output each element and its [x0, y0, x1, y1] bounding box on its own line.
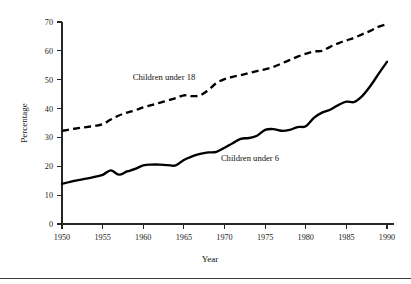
- y-tick-label: 0: [49, 220, 53, 229]
- y-axis-title: Percentage: [19, 103, 29, 142]
- series-label-children-under-18: Children under 18: [133, 72, 196, 82]
- y-tick-label: 40: [45, 105, 53, 114]
- x-tick-label: 1990: [379, 233, 395, 242]
- x-tick-label: 1985: [338, 233, 354, 242]
- footer-divider: [0, 278, 411, 279]
- y-tick-label: 10: [45, 191, 53, 200]
- y-tick-label: 30: [45, 133, 53, 142]
- y-axis-ticks: 010203040506070: [45, 18, 62, 229]
- y-tick-label: 50: [45, 76, 53, 85]
- x-tick-label: 1975: [257, 233, 273, 242]
- x-tick-label: 1955: [94, 233, 110, 242]
- x-axis-ticks: 195019551960196519701975198019851990: [54, 224, 395, 242]
- line-chart: 010203040506070 195019551960196519701975…: [0, 0, 411, 284]
- series-label-children-under-6: Children under 6: [221, 153, 280, 163]
- y-tick-label: 70: [45, 18, 53, 27]
- x-tick-label: 1960: [135, 233, 151, 242]
- series-line-children-under-18: [62, 24, 387, 131]
- x-tick-label: 1980: [298, 233, 314, 242]
- y-tick-label: 20: [45, 162, 53, 171]
- x-axis-title: Year: [202, 254, 219, 264]
- y-tick-label: 60: [45, 47, 53, 56]
- x-tick-label: 1950: [54, 233, 70, 242]
- x-tick-label: 1970: [216, 233, 232, 242]
- x-tick-label: 1965: [176, 233, 192, 242]
- chart-figure: 010203040506070 195019551960196519701975…: [0, 0, 411, 284]
